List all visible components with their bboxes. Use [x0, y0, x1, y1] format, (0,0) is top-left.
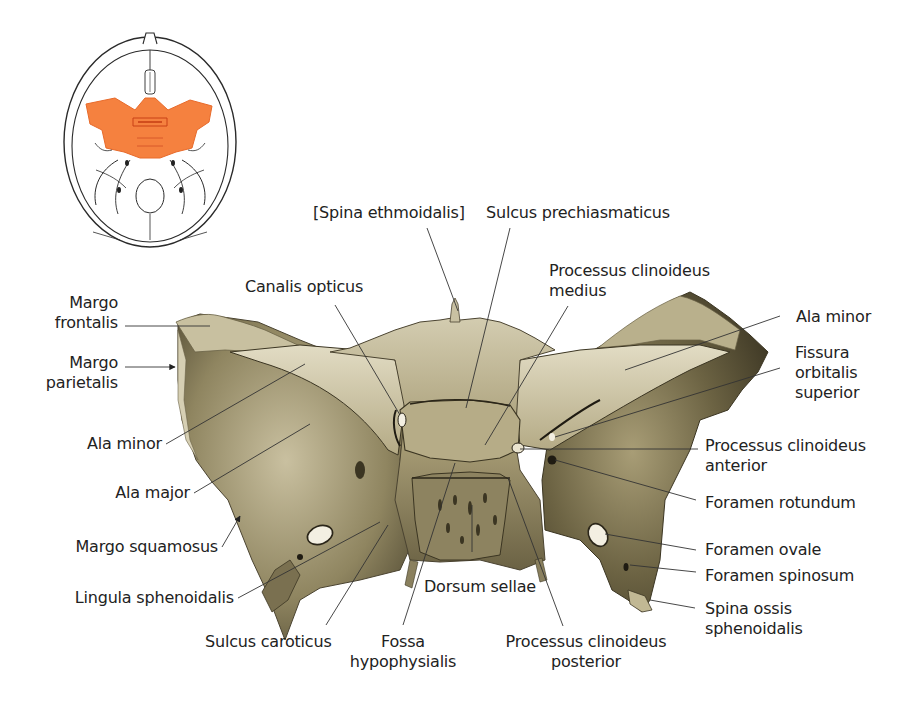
- label-margo-frontalis: Margo frontalis: [20, 293, 118, 333]
- label-margo-parietalis: Margo parietalis: [20, 353, 118, 393]
- label-foramen-ovale: Foramen ovale: [705, 540, 821, 560]
- label-spina-ethmoidalis: [Spina ethmoidalis]: [313, 203, 465, 223]
- label-ala-major: Ala major: [60, 483, 190, 503]
- label-dorsum-sellae: Dorsum sellae: [424, 577, 536, 597]
- skull-inset: [64, 33, 236, 247]
- label-sulcus-prechiasmaticus: Sulcus prechiasmaticus: [486, 203, 670, 223]
- label-foramen-spinosum: Foramen spinosum: [705, 566, 854, 586]
- sphenoid-figure: [Spina ethmoidalis] Sulcus prechiasmatic…: [0, 0, 923, 713]
- label-fissura-orbitalis-superior: Fissura orbitalis superior: [795, 343, 859, 403]
- label-canalis-opticus: Canalis opticus: [245, 277, 363, 297]
- label-processus-clinoideus-medius: Processus clinoideus medius: [549, 261, 710, 301]
- label-lingula-sphenoidalis: Lingula sphenoidalis: [10, 588, 234, 608]
- label-spina-ossis-sphenoidalis: Spina ossis sphenoidalis: [705, 599, 803, 639]
- label-margo-squamosus: Margo squamosus: [20, 537, 218, 557]
- label-processus-clinoideus-anterior: Processus clinoideus anterior: [705, 436, 866, 476]
- label-sulcus-caroticus: Sulcus caroticus: [205, 632, 332, 652]
- label-foramen-rotundum: Foramen rotundum: [705, 493, 856, 513]
- label-ala-minor-left: Ala minor: [40, 434, 162, 454]
- label-ala-minor-right: Ala minor: [796, 307, 871, 327]
- label-fossa-hypophysialis: Fossa hypophysialis: [338, 632, 468, 672]
- label-processus-clinoideus-posterior: Processus clinoideus posterior: [490, 632, 682, 672]
